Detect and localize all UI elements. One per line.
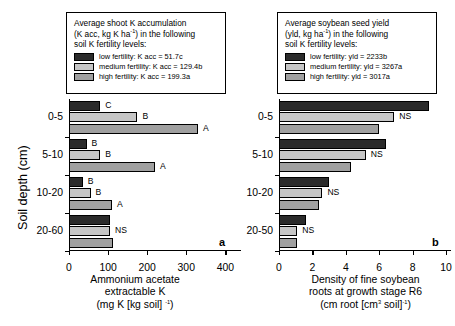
x-axis-title-panel-b: Density of fine soybean roots at growth … xyxy=(283,274,448,311)
bar-significance-label: NS xyxy=(115,225,127,235)
x-title-b-line1: Density of fine soybean xyxy=(283,274,448,286)
swatch-medium-icon xyxy=(74,63,94,71)
bar-significance-label: NS xyxy=(371,149,383,159)
legend-item-high-a: high fertility: K acc = 199.3a xyxy=(74,73,219,82)
bar-medium-fertility-0-5 xyxy=(279,112,394,122)
bar-medium-fertility-20-50 xyxy=(279,226,297,236)
y-axis-category-label: 10-20 xyxy=(246,188,273,198)
y-axis-category-label: 20-50 xyxy=(246,226,273,236)
legend-item-low-a: low fertility: K acc = 51.7c xyxy=(74,53,219,62)
legend-a-line2: (K acc, kg K ha-1) in the following xyxy=(74,29,219,40)
y-axis-title: Soil depth (cm) xyxy=(16,145,30,230)
x-title-b-line3: (cm root [cm3 soil]-1) xyxy=(283,299,448,311)
bar-significance-label: B xyxy=(142,111,148,121)
x-axis-tick xyxy=(312,251,313,255)
swatch-low-icon xyxy=(74,53,94,61)
x-axis-tick-label: 2 xyxy=(310,262,316,273)
x-axis-tick-label: 0 xyxy=(276,262,282,273)
y-axis-category-label: 5-10 xyxy=(42,150,63,160)
panel-letter-b: b xyxy=(432,236,439,248)
bar-low-fertility-0-5 xyxy=(279,101,429,111)
legend-b-label-high: high fertility: yld = 3017a xyxy=(310,73,390,81)
bar-high-fertility-20-60 xyxy=(69,238,113,248)
panel-letter-a: a xyxy=(219,236,225,248)
bar-medium-fertility-10-20 xyxy=(279,188,322,198)
x-axis-tick-label: 8 xyxy=(410,262,416,273)
legend-item-high-b: high fertility: yld = 3017a xyxy=(285,73,430,82)
x-axis-tick xyxy=(346,251,347,255)
bar-medium-fertility-0-5 xyxy=(69,112,137,122)
legend-item-medium-a: medium fertility: K acc = 129.4b xyxy=(74,63,219,72)
x-axis-tick xyxy=(186,251,187,255)
x-axis-tick-label: 10 xyxy=(440,262,452,273)
swatch-low-icon xyxy=(285,53,305,61)
bar-high-fertility-5-10 xyxy=(69,162,155,172)
x-axis-tick-label: 200 xyxy=(139,262,156,273)
bar-medium-fertility-5-10 xyxy=(69,150,100,160)
legend-item-low-b: low fertility: yld = 2233b xyxy=(285,53,430,62)
plot-area-panel-b: 0-5NS5-10NS10-20NS20-50NS0246810 xyxy=(279,99,451,251)
swatch-high-icon xyxy=(285,73,305,81)
bar-significance-label: B xyxy=(96,187,102,197)
legend-a-label-medium: medium fertility: K acc = 129.4b xyxy=(99,63,202,71)
bar-low-fertility-20-60 xyxy=(69,215,110,225)
legend-item-medium-b: medium fertility: yld = 3267a xyxy=(285,63,430,72)
x-axis-line-a xyxy=(69,250,241,251)
bar-low-fertility-10-20 xyxy=(69,177,83,187)
bar-significance-label: A xyxy=(203,123,209,133)
x-axis-tick xyxy=(69,251,70,255)
bar-high-fertility-5-10 xyxy=(279,162,351,172)
x-title-a-line3: (mg K [kg soil] -1) xyxy=(55,299,215,311)
x-axis-tick-label: 4 xyxy=(343,262,349,273)
legend-b-line2: (yld, kg ha-1) in the following xyxy=(285,29,430,40)
x-axis-tick xyxy=(225,251,226,255)
y-axis-category-label: 0-5 xyxy=(48,112,63,122)
x-title-b-line2: roots at growth stage R6 xyxy=(283,286,448,298)
x-axis-tick xyxy=(108,251,109,255)
legend-a-label-low: low fertility: K acc = 51.7c xyxy=(99,53,183,61)
y-axis-category-label: 20-60 xyxy=(36,226,63,236)
bar-significance-label: C xyxy=(105,100,111,110)
swatch-high-icon xyxy=(74,73,94,81)
x-axis-tick-label: 400 xyxy=(217,262,234,273)
legend-panel-a: Average shoot K accumulation (K acc, kg … xyxy=(66,12,226,94)
legend-b-items: low fertility: yld = 2233b medium fertil… xyxy=(285,53,430,82)
x-axis-title-panel-a: Ammonium acetate extractable K (mg K [kg… xyxy=(55,274,215,311)
swatch-medium-icon xyxy=(285,63,305,71)
x-axis-tick xyxy=(379,251,380,255)
bar-high-fertility-10-20 xyxy=(69,200,112,210)
bar-high-fertility-0-5 xyxy=(69,124,198,134)
legend-panel-b: Average soybean seed yield (yld, kg ha-1… xyxy=(277,12,437,94)
x-title-a-line2: extractable K xyxy=(55,286,215,298)
legend-b-line3: soil K fertility levels: xyxy=(285,39,430,50)
bar-low-fertility-10-20 xyxy=(279,177,329,187)
bar-medium-fertility-10-20 xyxy=(69,188,91,198)
bar-high-fertility-0-5 xyxy=(279,124,379,134)
bar-significance-label: NS xyxy=(399,111,411,121)
x-axis-tick-label: 100 xyxy=(99,262,116,273)
bar-high-fertility-10-20 xyxy=(279,200,319,210)
x-axis-tick xyxy=(279,251,280,255)
bar-low-fertility-20-50 xyxy=(279,215,306,225)
legend-b-label-medium: medium fertility: yld = 3267a xyxy=(310,63,402,71)
bar-significance-label: A xyxy=(160,161,166,171)
bar-medium-fertility-20-60 xyxy=(69,226,110,236)
x-axis-tick xyxy=(413,251,414,255)
x-axis-tick xyxy=(147,251,148,255)
bar-significance-label: NS xyxy=(302,225,314,235)
bar-low-fertility-5-10 xyxy=(69,139,87,149)
bar-significance-label: A xyxy=(117,199,123,209)
bar-significance-label: B xyxy=(105,149,111,159)
x-axis-tick-label: 0 xyxy=(66,262,72,273)
x-axis-line-b xyxy=(279,250,451,251)
legend-a-items: low fertility: K acc = 51.7c medium fert… xyxy=(74,53,219,82)
y-axis-category-label: 5-10 xyxy=(252,150,273,160)
legend-b-label-low: low fertility: yld = 2233b xyxy=(310,53,387,61)
legend-b-line1: Average soybean seed yield xyxy=(285,18,430,29)
bar-medium-fertility-5-10 xyxy=(279,150,366,160)
legend-a-label-high: high fertility: K acc = 199.3a xyxy=(99,73,190,81)
bar-significance-label: B xyxy=(88,176,94,186)
legend-a-line3: soil K fertility levels: xyxy=(74,39,219,50)
bar-high-fertility-20-50 xyxy=(279,238,297,248)
x-axis-tick xyxy=(446,251,447,255)
